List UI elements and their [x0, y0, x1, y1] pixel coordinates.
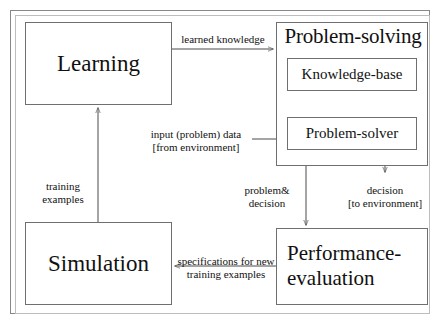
- edge-label-learned-knowledge: learned knowledge: [174, 33, 272, 46]
- edge-label-specifications: specifications for new training examples: [172, 255, 280, 281]
- edge-label-training-examples: training examples: [32, 180, 94, 206]
- node-problem-solver-label: Problem-solver: [306, 125, 398, 142]
- edge-label-specifications-line1: specifications for new: [172, 255, 280, 268]
- node-problem-solving-label: Problem-solving: [277, 25, 429, 49]
- node-performance-evaluation-label: Performance- evaluation: [287, 241, 419, 291]
- edge-label-input-problem-data-line2: [from environment]: [140, 141, 252, 154]
- edge-label-training-examples-line1: training: [32, 180, 94, 193]
- node-performance-evaluation-line2: evaluation: [287, 266, 419, 291]
- node-problem-solver[interactable]: Problem-solver: [287, 117, 417, 150]
- node-knowledge-base[interactable]: Knowledge-base: [287, 58, 417, 91]
- edge-label-decision-to-environment-line1: decision: [330, 184, 440, 197]
- node-performance-evaluation[interactable]: Performance- evaluation: [276, 228, 428, 305]
- edge-label-specifications-line2: training examples: [172, 268, 280, 281]
- edge-label-input-problem-data: input (problem) data [from environment]: [140, 128, 252, 154]
- node-learning[interactable]: Learning: [25, 22, 172, 105]
- edge-label-problem-and-decision: problem& decision: [233, 184, 301, 210]
- diagram-root: Learning Problem-solving Knowledge-base …: [0, 0, 445, 329]
- edge-label-decision-to-environment-line2: [to environment]: [330, 197, 440, 210]
- node-simulation[interactable]: Simulation: [25, 222, 172, 305]
- node-knowledge-base-label: Knowledge-base: [302, 66, 403, 83]
- edge-label-training-examples-line2: examples: [32, 193, 94, 206]
- node-learning-label: Learning: [57, 51, 140, 77]
- edge-label-problem-and-decision-line2: decision: [233, 197, 301, 210]
- node-simulation-label: Simulation: [48, 251, 149, 277]
- edge-label-problem-and-decision-line1: problem&: [233, 184, 301, 197]
- edge-label-input-problem-data-line1: input (problem) data: [140, 128, 252, 141]
- edge-label-decision-to-environment: decision [to environment]: [330, 184, 440, 210]
- node-performance-evaluation-line1: Performance-: [287, 241, 419, 266]
